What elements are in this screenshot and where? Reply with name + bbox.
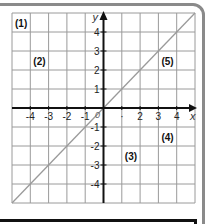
y-tick-label: 3 [94,46,100,57]
origin-label: 0 [95,110,100,120]
x-axis-label: x [189,110,196,122]
y-tick-label: -4 [91,179,100,190]
region-label-3: (3) [125,151,137,162]
y-tick-label: 2 [94,65,100,76]
x-tick-label: · [120,111,123,122]
region-label-1: (1) [15,18,27,29]
y-tick-label: 1 [94,84,100,95]
x-tick-label: 3 [156,111,162,122]
region-label-5: (5) [161,56,173,67]
answer-box [0,219,197,224]
y-axis-arrow-icon [100,11,108,20]
x-tick-label: -4 [26,111,35,122]
coordinate-plane: xy-4-3-2-1·2344321-1-2-3-40 (1)(2)(3)(4)… [0,0,210,224]
x-tick-label: -3 [44,111,53,122]
y-tick-label: -1 [91,122,100,133]
x-tick-label: -1 [81,111,90,122]
x-tick-label: 4 [174,111,180,122]
x-tick-label: 2 [137,111,143,122]
y-tick-label: 4 [94,27,100,38]
region-label-2: (2) [33,56,45,67]
y-tick-label: -3 [91,160,100,171]
x-tick-label: -2 [62,111,71,122]
y-tick-label: -2 [91,141,100,152]
region-label-4: (4) [161,132,173,143]
